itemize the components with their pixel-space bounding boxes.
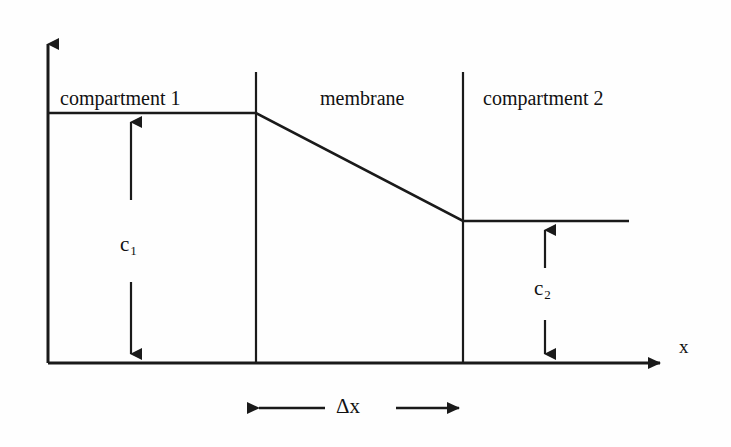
c2-symbol: c <box>534 276 543 300</box>
delta-x-label: Δx <box>336 396 360 417</box>
membrane-label: membrane <box>320 88 404 108</box>
concentration-profile-line <box>48 113 629 221</box>
compartment-1-label: compartment 1 <box>60 88 181 108</box>
c1-symbol: c <box>120 232 129 256</box>
x-axis-label: x <box>679 337 689 356</box>
c1-subscript: 1 <box>130 243 137 258</box>
diagram-canvas <box>0 0 731 447</box>
compartment-2-label: compartment 2 <box>483 88 604 108</box>
c1-label: c1 <box>120 234 136 255</box>
c2-label: c2 <box>534 278 550 299</box>
c2-subscript: 2 <box>544 287 551 302</box>
diffusion-across-membrane-diagram: compartment 1 membrane compartment 2 c1 … <box>0 0 731 447</box>
